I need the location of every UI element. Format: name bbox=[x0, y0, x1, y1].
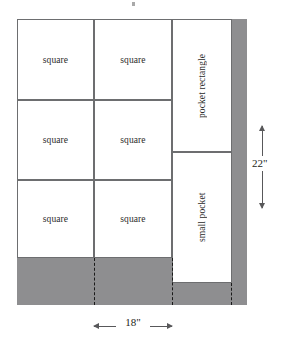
dimension-height-arrow-up-icon bbox=[259, 125, 265, 131]
piece-square-r3c1-label: square bbox=[18, 181, 93, 257]
piece-pocket-rectangle-label: pocket rectangle bbox=[173, 20, 231, 151]
piece-small-pocket-label: small pocket bbox=[173, 153, 231, 282]
piece-square-r1c2-label: square bbox=[95, 20, 171, 99]
dashed-guide-middle bbox=[172, 258, 173, 305]
dimension-width-arrow-right-icon bbox=[167, 323, 173, 329]
piece-square-r3c1: square bbox=[17, 180, 94, 258]
piece-square-r2c2-label: square bbox=[95, 101, 171, 179]
piece-square-r2c2: square bbox=[94, 100, 172, 180]
dimension-height: 22" bbox=[256, 126, 269, 208]
piece-square-r1c1: square bbox=[17, 19, 94, 100]
piece-square-r2c1-label: square bbox=[18, 101, 93, 179]
page-artifact-speck bbox=[132, 2, 135, 6]
fabric-cutting-layout-diagram: square square square square square squar… bbox=[0, 0, 285, 342]
dashed-guide-right bbox=[231, 283, 232, 305]
piece-square-r1c2: square bbox=[94, 19, 172, 100]
dashed-guide-left bbox=[94, 258, 95, 305]
piece-square-r2c1: square bbox=[17, 100, 94, 180]
piece-small-pocket: small pocket bbox=[172, 152, 232, 283]
dimension-height-arrow-down-icon bbox=[259, 203, 265, 209]
piece-square-r3c2: square bbox=[94, 180, 172, 258]
waste-region-bottom-right bbox=[172, 283, 232, 305]
dimension-width: 18" bbox=[94, 320, 172, 332]
waste-region-right bbox=[232, 19, 247, 305]
dimension-width-arrow-left-icon bbox=[93, 323, 99, 329]
piece-square-r1c1-label: square bbox=[18, 20, 93, 99]
dimension-width-label: 18" bbox=[116, 316, 150, 329]
piece-square-r3c2-label: square bbox=[95, 181, 171, 257]
piece-pocket-rectangle: pocket rectangle bbox=[172, 19, 232, 152]
dimension-height-label: 22" bbox=[251, 156, 269, 171]
